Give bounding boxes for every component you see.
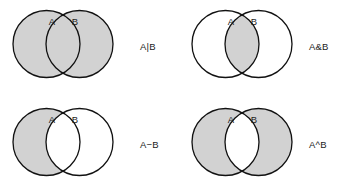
expression-label-difference: A−B (140, 139, 159, 150)
venn-panel-union: A B A|B (0, 0, 179, 98)
expression-label-intersection: A&B (309, 41, 329, 52)
venn-figure-intersection: A B (179, 0, 358, 98)
venn-figure-symmetric-difference: A B (179, 98, 358, 196)
venn-panel-difference: A B A−B (0, 98, 179, 196)
venn-panel-symmetric-difference: A B A^B (179, 98, 358, 196)
set-b-label: B (72, 114, 78, 125)
venn-panel-intersection: A B A&B (179, 0, 358, 98)
shaded-region-union (13, 11, 113, 78)
set-b-label: B (251, 16, 257, 27)
expression-label-symmetric-difference: A^B (309, 139, 327, 150)
set-a-label: A (49, 114, 56, 125)
set-b-label: B (251, 114, 257, 125)
set-a-label: A (228, 16, 235, 27)
set-a-label: A (49, 16, 56, 27)
venn-diagram-board: A B A|B A B A&B (0, 0, 358, 196)
shaded-region-symmetric-difference (192, 109, 292, 176)
set-b-label: B (72, 16, 78, 27)
set-a-label: A (228, 114, 235, 125)
expression-label-union: A|B (140, 41, 156, 52)
